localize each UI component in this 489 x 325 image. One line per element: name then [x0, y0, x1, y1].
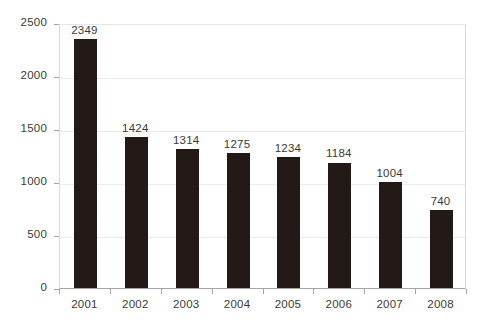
x-axis-tick-mark	[263, 289, 264, 294]
gridline	[60, 184, 465, 185]
x-axis-category-label: 2007	[362, 298, 418, 310]
x-axis-category-label: 2003	[158, 298, 214, 310]
bar-value-label: 1275	[212, 138, 262, 150]
x-axis-tick-mark	[212, 289, 213, 294]
bar-chart: 05001000150020002500 2001200220032004200…	[0, 0, 489, 325]
bar-value-label: 1314	[161, 134, 211, 146]
bar	[227, 153, 250, 288]
x-axis-category-label: 2006	[311, 298, 367, 310]
bar	[277, 157, 300, 288]
bar-value-label: 1004	[365, 167, 415, 179]
x-axis-category-label: 2002	[107, 298, 163, 310]
y-axis-tick-label: 2000	[0, 69, 47, 81]
bar	[430, 210, 453, 288]
x-axis-tick-mark	[364, 289, 365, 294]
plot-area	[59, 24, 466, 289]
y-axis-tick-label: 1500	[0, 122, 47, 134]
y-axis-tick-label: 1000	[0, 175, 47, 187]
x-axis-category-label: 2001	[56, 298, 112, 310]
x-axis-category-label: 2004	[209, 298, 265, 310]
x-axis-tick-mark	[161, 289, 162, 294]
x-axis-tick-mark	[466, 289, 467, 294]
gridline	[60, 237, 465, 238]
x-axis-tick-mark	[313, 289, 314, 294]
bar	[176, 149, 199, 288]
x-axis-tick-mark	[59, 289, 60, 294]
bar	[328, 163, 351, 289]
bar-value-label: 1184	[314, 147, 364, 159]
x-axis-tick-mark	[110, 289, 111, 294]
bar-value-label: 2349	[59, 24, 109, 36]
y-axis-tick-label: 500	[0, 228, 47, 240]
bar	[74, 39, 97, 288]
bar-value-label: 1234	[263, 142, 313, 154]
bar	[125, 137, 148, 288]
x-axis-category-label: 2005	[260, 298, 316, 310]
bar-value-label: 1424	[110, 122, 160, 134]
y-axis-tick-label: 0	[0, 281, 47, 293]
bar	[379, 182, 402, 288]
bar-value-label: 740	[416, 195, 466, 207]
y-axis-tick-label: 2500	[0, 16, 47, 28]
x-axis-tick-mark	[415, 289, 416, 294]
gridline	[60, 78, 465, 79]
x-axis-category-label: 2008	[413, 298, 469, 310]
